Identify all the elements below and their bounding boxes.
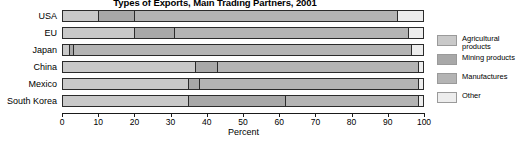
y-axis-label: China xyxy=(0,61,57,73)
x-axis-tick-label: 10 xyxy=(86,117,110,127)
x-axis-tick-label: 90 xyxy=(376,117,400,127)
bar-row xyxy=(62,44,424,56)
bar-segment[interactable] xyxy=(99,11,135,21)
bar-segment[interactable] xyxy=(63,11,99,21)
bar-segment[interactable] xyxy=(189,96,286,106)
stacked-bar[interactable] xyxy=(62,95,424,107)
bar-segment[interactable] xyxy=(63,62,196,72)
chart-legend: Agricultural productsMining productsManu… xyxy=(437,34,523,110)
legend-swatch xyxy=(437,35,457,46)
legend-swatch xyxy=(437,73,457,84)
legend-swatch xyxy=(437,92,457,103)
x-axis-tick-label: 80 xyxy=(340,117,364,127)
x-axis-tick-label: 40 xyxy=(195,117,219,127)
bar-segment[interactable] xyxy=(409,28,423,38)
stacked-bar[interactable] xyxy=(62,10,424,22)
bar-segment[interactable] xyxy=(419,96,423,106)
bar-segment[interactable] xyxy=(63,45,70,55)
bar-segment[interactable] xyxy=(196,62,218,72)
bar-segment[interactable] xyxy=(175,28,409,38)
x-axis-tick-label: 30 xyxy=(159,117,183,127)
bar-segment[interactable] xyxy=(63,28,135,38)
bar-segment[interactable] xyxy=(135,11,398,21)
bar-segment[interactable] xyxy=(135,28,175,38)
stacked-bar[interactable] xyxy=(62,61,424,73)
bar-row xyxy=(62,10,424,22)
x-axis-tick-label: 100 xyxy=(412,117,436,127)
bar-segment[interactable] xyxy=(189,79,200,89)
legend-item[interactable]: Mining products xyxy=(437,53,523,69)
bar-row xyxy=(62,78,424,90)
bar-segment[interactable] xyxy=(286,96,419,106)
y-axis-label: USA xyxy=(0,10,57,22)
y-axis-label: Mexico xyxy=(0,78,57,90)
bar-row xyxy=(62,95,424,107)
x-axis-tick-label: 70 xyxy=(303,117,327,127)
x-axis-tick-label: 50 xyxy=(231,117,255,127)
legend-label: Manufactures xyxy=(462,72,507,81)
y-axis-label: EU xyxy=(0,27,57,39)
stacked-bar[interactable] xyxy=(62,27,424,39)
legend-label: Mining products xyxy=(462,53,515,62)
x-axis-tick-label: 60 xyxy=(267,117,291,127)
bar-segment[interactable] xyxy=(218,62,420,72)
bar-segment[interactable] xyxy=(63,96,189,106)
legend-item[interactable]: Other xyxy=(437,91,523,107)
y-axis-label: South Korea xyxy=(0,95,57,107)
bar-row xyxy=(62,61,424,73)
x-axis-tick-label: 20 xyxy=(122,117,146,127)
bar-segment[interactable] xyxy=(419,79,423,89)
legend-swatch xyxy=(437,54,457,65)
legend-item[interactable]: Manufactures xyxy=(437,72,523,88)
bar-segment[interactable] xyxy=(412,45,423,55)
x-axis-title: Percent xyxy=(62,127,425,137)
bar-segment[interactable] xyxy=(200,79,420,89)
bar-segment[interactable] xyxy=(398,11,423,21)
legend-label: Agricultural products xyxy=(462,34,523,51)
stacked-bar[interactable] xyxy=(62,78,424,90)
chart-container: Types of Exports, Main Trading Partners,… xyxy=(0,0,524,141)
bar-segment[interactable] xyxy=(63,79,189,89)
chart-title: Types of Exports, Main Trading Partners,… xyxy=(0,0,430,8)
y-axis-label: Japan xyxy=(0,44,57,56)
legend-item[interactable]: Agricultural products xyxy=(437,34,523,50)
bar-row xyxy=(62,27,424,39)
bar-segment[interactable] xyxy=(419,62,423,72)
legend-label: Other xyxy=(462,91,481,100)
x-axis-tick-label: 0 xyxy=(50,117,74,127)
plot-area xyxy=(62,10,424,113)
bar-segment[interactable] xyxy=(74,45,412,55)
stacked-bar[interactable] xyxy=(62,44,424,56)
